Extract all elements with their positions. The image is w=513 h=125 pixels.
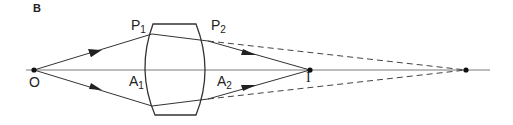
label-A2: A2 xyxy=(217,73,232,91)
panel-label: B xyxy=(33,2,41,14)
label-P2: P2 xyxy=(211,17,226,35)
label-P1: P1 xyxy=(131,17,146,35)
upper-ray-arrow-icon xyxy=(89,50,102,57)
upper-ray xyxy=(34,34,310,70)
label-A1: A1 xyxy=(129,73,144,91)
lower-ray-arrow-icon xyxy=(89,83,102,90)
object-point-O xyxy=(31,67,36,72)
lower-exit-arrow-icon xyxy=(241,85,256,91)
label-O: O xyxy=(29,74,40,90)
ray-diagram: B O P1 P2 A1 A2 I xyxy=(0,0,513,125)
lower-dashed-extension xyxy=(208,70,466,99)
upper-dashed-extension xyxy=(208,41,466,70)
virtual-convergence-point xyxy=(463,67,468,72)
lower-ray xyxy=(34,70,310,106)
label-I: I xyxy=(306,70,311,85)
upper-exit-arrow-icon xyxy=(241,49,256,55)
